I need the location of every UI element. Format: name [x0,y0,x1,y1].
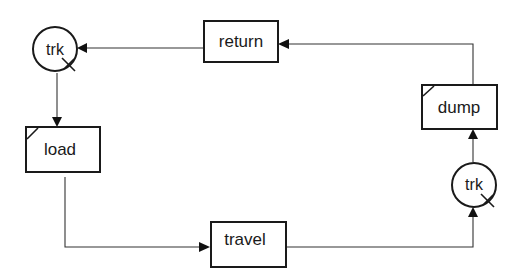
activity-node-dump[interactable]: dump [422,85,497,129]
arrowhead-travel-to-trk2 [468,207,478,217]
activity-cycle-diagram: trk return load travel trk dump [0,0,529,276]
activity-node-return[interactable]: return [204,21,278,62]
activity-label: load [44,140,76,159]
queue-label: trk [465,176,484,193]
activity-label: travel [224,230,266,249]
activity-node-travel[interactable]: travel [211,222,286,267]
queue-label: trk [46,41,65,58]
arrowhead-return-to-trk1 [77,43,87,53]
activity-label: dump [438,98,481,117]
activity-label: return [219,32,263,51]
activity-node-load[interactable]: load [26,127,100,172]
edge-dump-to-return [284,44,473,85]
arrowhead-load-to-travel [199,242,210,252]
arrowhead-dump-to-return [278,39,289,49]
edge-travel-to-trk2 [286,213,473,247]
queue-node-trk-1[interactable]: trk [33,27,77,71]
arrowhead-trk1-to-load [52,117,62,127]
arrowhead-trk2-to-dump [468,129,478,139]
edge-load-to-travel [65,177,205,247]
queue-node-trk-2[interactable]: trk [452,163,496,207]
